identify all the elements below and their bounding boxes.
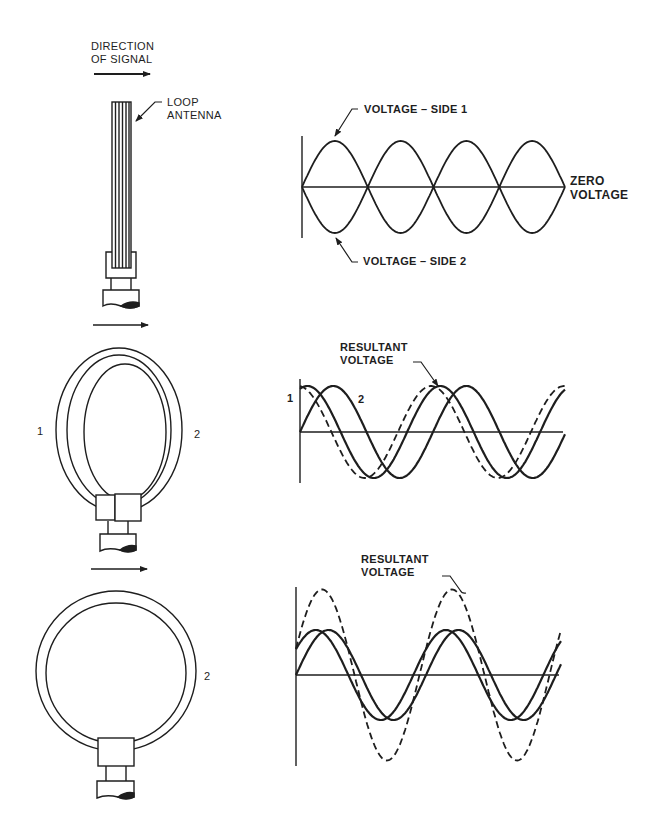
zero-line2: VOLTAGE bbox=[570, 188, 628, 202]
resultant-mid-line2: VOLTAGE bbox=[340, 354, 408, 367]
direction-of-signal-label: DIRECTION OF SIGNAL bbox=[91, 40, 154, 66]
loop-antenna-label: LOOP ANTENNA bbox=[167, 96, 222, 122]
loop-antenna-pointer bbox=[136, 102, 162, 121]
loop-antenna-line1: LOOP bbox=[167, 96, 222, 109]
resultant-bot-line1: RESULTANT bbox=[361, 553, 429, 566]
graph-side2-label: 2 bbox=[358, 393, 364, 406]
side1-pointer bbox=[335, 109, 358, 136]
zero-line1: ZERO bbox=[570, 174, 628, 188]
resultant-mid-pointer bbox=[413, 362, 438, 386]
resultant-bot-line2: VOLTAGE bbox=[361, 566, 429, 579]
resultant-voltage-bottom-label: RESULTANT VOLTAGE bbox=[361, 553, 429, 579]
voltage-side1-label: VOLTAGE – SIDE 1 bbox=[364, 103, 467, 116]
voltage-side2-label: VOLTAGE – SIDE 2 bbox=[363, 255, 466, 268]
loop-antenna-diagram bbox=[0, 0, 667, 831]
direction-line2: OF SIGNAL bbox=[91, 53, 154, 66]
graph-edge-on-voltages bbox=[302, 136, 565, 238]
loop-antenna-angled bbox=[56, 348, 182, 552]
graph-intermediate-voltages bbox=[300, 379, 565, 483]
loop-antenna-line2: ANTENNA bbox=[167, 109, 222, 122]
loop-antenna-broadside bbox=[36, 591, 196, 799]
graph-side1-label: 1 bbox=[287, 392, 293, 405]
graph-broadside-voltages bbox=[296, 587, 561, 766]
figure-caption-cropped bbox=[18, 822, 318, 831]
loop-side2-label: 2 bbox=[194, 428, 200, 441]
series-2 bbox=[302, 187, 565, 233]
series-1 bbox=[302, 141, 565, 187]
broadside-side2-label: 2 bbox=[204, 670, 210, 683]
loop-antenna-edge-on bbox=[103, 102, 139, 308]
direction-line1: DIRECTION bbox=[91, 40, 154, 53]
zero-voltage-label: ZERO VOLTAGE bbox=[570, 174, 628, 202]
side2-pointer bbox=[336, 238, 358, 262]
resultant-mid-line1: RESULTANT bbox=[340, 341, 408, 354]
resultant-voltage-mid-label: RESULTANT VOLTAGE bbox=[340, 341, 408, 367]
loop-side1-label: 1 bbox=[37, 425, 43, 438]
